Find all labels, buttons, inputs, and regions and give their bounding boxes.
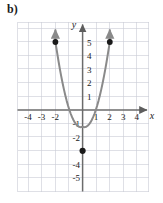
endpoint-left-dot	[53, 39, 59, 45]
x-tick-label: -2	[51, 112, 59, 122]
vertex-dot	[80, 148, 86, 154]
y-tick-label: -4	[73, 160, 81, 170]
x-tick-label: 4	[135, 112, 140, 122]
y-axis-label: y	[71, 19, 77, 30]
y-tick-label: -5	[73, 173, 81, 183]
endpoint-right-dot	[107, 39, 113, 45]
x-tick-label: 2	[107, 112, 112, 122]
y-tick-label: 5	[87, 38, 92, 48]
x-axis-label: x	[149, 110, 155, 121]
graph-figure: x y -4 -3 -2 1 2 3 4 5 4 3 2 1 -1 -2 -4 …	[0, 0, 163, 203]
y-tick-label: -2	[73, 133, 81, 143]
x-tick-label: -3	[38, 112, 46, 122]
y-tick-label: 1	[87, 92, 92, 102]
y-tick-label: 4	[87, 51, 92, 61]
x-tick-label: 3	[121, 112, 126, 122]
x-tick-label: -4	[24, 112, 32, 122]
y-tick-label: 2	[87, 78, 92, 88]
y-tick-label: 3	[87, 65, 92, 75]
